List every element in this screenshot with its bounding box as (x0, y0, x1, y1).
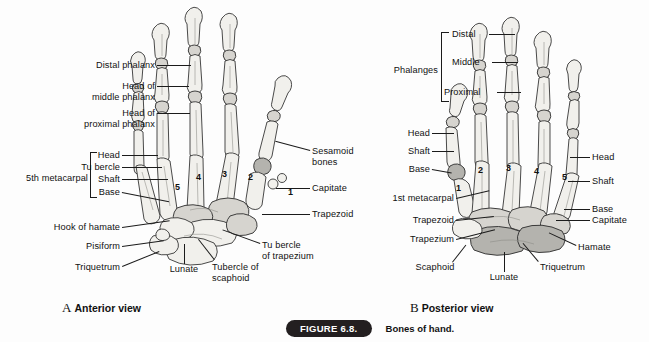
label-base-b-right: Base (592, 204, 644, 215)
leader-capitate-b (556, 220, 590, 221)
label-trapezium-b: Trapezium (376, 234, 454, 245)
label-head-b-left: Head (384, 128, 430, 139)
leader-head-proximal-phalanx (157, 113, 190, 114)
bone-number-5-a: 5 (175, 182, 180, 192)
label-hamate-b: Hamate (578, 242, 638, 253)
leader-head-b-right (570, 157, 590, 158)
panel-view-name-a: Anterior view (74, 302, 141, 314)
bone-number-5-b: 5 (562, 172, 567, 182)
label-trapezoid-b: Trapezoid (376, 215, 454, 226)
bone-number-1-a: 1 (288, 187, 293, 197)
label-base-a: Base (58, 187, 120, 198)
panel-letter-b: B (410, 300, 419, 315)
label-head-of-2: Head of (40, 108, 155, 119)
label-tubercle-trapezium-2: of trapezium (262, 251, 348, 262)
label-proximal-b: Proximal (444, 87, 500, 98)
label-triquetrum-b: Triquetrum (540, 262, 616, 273)
leader-proximal-b (497, 92, 521, 93)
label-middle-phalanx: middle phalanx (18, 92, 155, 103)
label-head-b-right: Head (592, 152, 644, 163)
leader-shaft-b-right (568, 181, 590, 182)
bone-number-1-b: 1 (456, 183, 461, 193)
label-capitate-a: Capitate (312, 183, 384, 194)
label-lunate-b: Lunate (480, 272, 528, 283)
leader-distal-phalanx (157, 65, 191, 66)
label-head-a: Head (58, 150, 120, 161)
leader-lunate-a (184, 244, 185, 264)
bone-number-2-a: 2 (248, 172, 253, 182)
label-scaphoid-b: Scaphoid (400, 262, 470, 273)
label-shaft-a: Shaft (58, 174, 120, 185)
view-label-anterior: AAnterior view (62, 300, 141, 316)
leader-head-a (122, 155, 158, 156)
label-proximal-phalanx: proximal phalanx (14, 119, 155, 130)
figure-caption-text: Bones of hand. (386, 323, 455, 334)
panel-view-name-b: Posterior view (422, 302, 494, 314)
label-tubercle-of-scaphoid-2: scaphoid (212, 273, 282, 284)
label-tubercle-of-scaphoid-1: Tubercle of (212, 262, 282, 273)
label-triquetrum-a: Triquetrum (26, 262, 120, 273)
leader-shaft-b-left (432, 151, 454, 152)
leader-head-middle-phalanx (157, 86, 189, 87)
bone-number-3-a: 3 (222, 169, 227, 179)
label-sesamoid-1: Sesamoid (312, 146, 384, 157)
figure-caption-bar: FIGURE 6.8. Bones of hand. (286, 320, 454, 337)
leader-middle-b (492, 62, 518, 63)
bone-number-3-b: 3 (506, 163, 511, 173)
label-capitate-b: Capitate (592, 215, 644, 226)
bone-number-4-b: 4 (534, 166, 539, 176)
label-sesamoid-2: bones (312, 157, 384, 168)
leader-base-b-right (564, 209, 590, 210)
bone-number-2-b: 2 (478, 165, 483, 175)
label-shaft-b-right: Shaft (592, 176, 644, 187)
leader-distal-b (489, 34, 515, 35)
label-tubercle-a: Tu bercle (50, 162, 120, 173)
label-shaft-b-left: Shaft (384, 146, 430, 157)
view-label-posterior: BPosterior view (410, 300, 493, 316)
label-1st-metacarpal: 1st metacarpal (368, 193, 454, 204)
label-base-b-left: Base (384, 164, 430, 175)
label-hook-of-hamate: Hook of hamate (20, 222, 120, 233)
bone-number-4-a: 4 (196, 172, 201, 182)
leader-shaft-a (122, 179, 168, 180)
leader-trapezoid-a (262, 214, 310, 215)
label-tubercle-trapezium-1: Tu bercle (262, 240, 348, 251)
label-distal-phalanx: Distal phalanx (40, 60, 155, 71)
figure-page: Distal phalanx Head of middle phalanx He… (0, 0, 649, 342)
label-trapezoid-a: Trapezoid (312, 209, 384, 220)
label-head-of-1: Head of (40, 81, 155, 92)
label-pisiform: Pisiform (36, 241, 120, 252)
leader-lunate-b (504, 252, 505, 272)
leader-head-b-left (432, 133, 454, 134)
panel-letter-a: A (62, 300, 71, 315)
leader-tubercle-a (122, 167, 162, 168)
label-phalanges: Phalanges (374, 65, 438, 76)
figure-number-pill: FIGURE 6.8. (286, 320, 372, 337)
label-lunate-a: Lunate (160, 264, 208, 275)
